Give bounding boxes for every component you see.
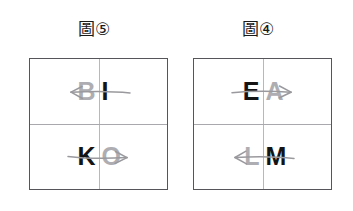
cell-letter: I [102, 79, 109, 104]
grid-cell-top-left: B [30, 59, 99, 124]
grid-cell-bottom-right: M [263, 124, 332, 189]
grid-cell-top-right: A [263, 59, 332, 124]
grid-cell-bottom-left: K [30, 124, 99, 189]
grid-row-bottom: K O [30, 124, 167, 189]
grid-cell-bottom-right: O [99, 124, 168, 189]
cell-letter: K [77, 144, 95, 169]
cell-letter: L [244, 144, 259, 169]
cell-letter: O [102, 144, 121, 169]
figure-block-4: 圖④ E A L M [182, 0, 334, 211]
cell-letter: M [266, 144, 287, 169]
figure-caption-5: 圖⑤ [18, 18, 170, 40]
grid-cell-top-left: E [194, 59, 263, 124]
grid-cell-top-right: I [99, 59, 168, 124]
grid-row-top: E A [194, 59, 331, 124]
cell-letter: A [266, 79, 284, 104]
grid-box-5: B I K O [29, 58, 168, 190]
grid-row-bottom: L M [194, 124, 331, 189]
figure-caption-4: 圖④ [182, 18, 334, 40]
cell-letter: B [77, 79, 95, 104]
cell-letter: E [243, 79, 260, 104]
grid-cell-bottom-left: L [194, 124, 263, 189]
grid-row-top: B I [30, 59, 167, 124]
grid-box-4: E A L M [193, 58, 332, 190]
figure-block-5: 圖⑤ B I K O [18, 0, 170, 211]
